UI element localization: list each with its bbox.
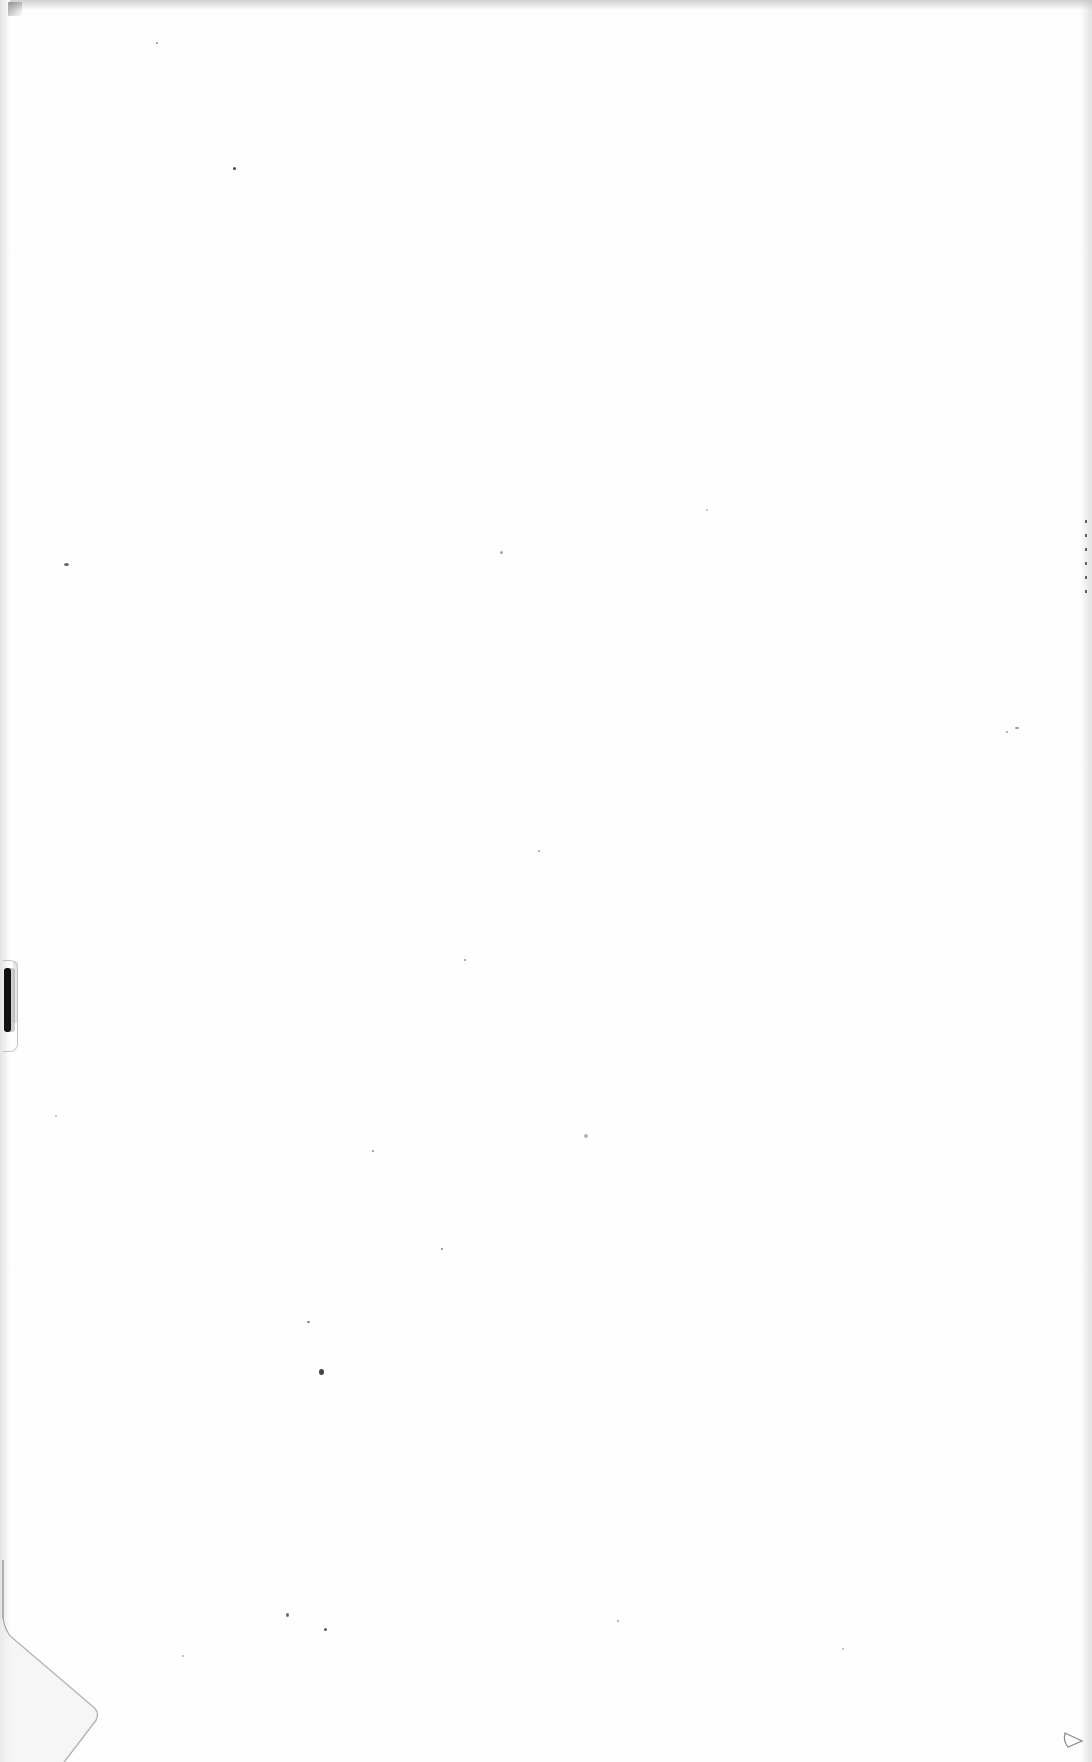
folded-corner (0, 1560, 200, 1762)
scan-speck (182, 1655, 184, 1657)
scan-speck (319, 1369, 324, 1375)
scan-speck (538, 850, 540, 852)
scan-speck (64, 563, 69, 566)
scan-speck (441, 1248, 443, 1250)
scan-speck (842, 1648, 844, 1650)
top-edge-shadow (10, 0, 1092, 10)
scan-speck (584, 1134, 588, 1138)
scan-speck (307, 1321, 310, 1323)
scan-speck (233, 167, 236, 170)
scan-speck (500, 551, 503, 554)
scan-speck (156, 42, 158, 44)
scan-speck (1015, 727, 1019, 729)
scan-speck (617, 1620, 619, 1622)
top-left-corner-shadow (8, 2, 22, 16)
scan-speck (706, 509, 708, 511)
left-edge-shadow (0, 0, 10, 1762)
right-edge-marks (1085, 520, 1087, 600)
bottom-right-corner-mark (1060, 1725, 1090, 1755)
scan-speck (286, 1613, 289, 1617)
scan-speck (464, 959, 466, 961)
scan-speck (1006, 731, 1008, 733)
scan-speck (324, 1628, 327, 1631)
blank-page (0, 0, 1092, 1762)
binding-mark (4, 968, 11, 1032)
scan-speck (55, 1115, 57, 1117)
scan-speck (372, 1150, 374, 1152)
right-edge-shadow (1080, 0, 1092, 1762)
